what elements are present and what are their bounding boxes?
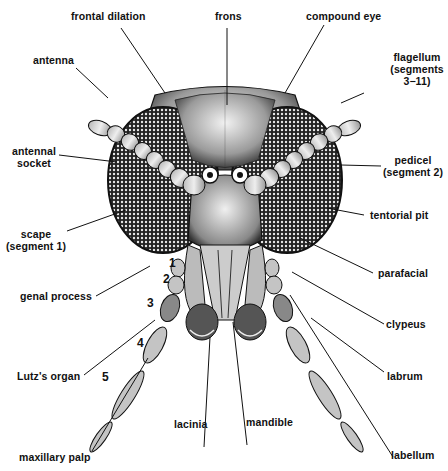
label-flagellum-line1: flagellum [386,51,448,63]
palp-segment-number-2: 2 [163,272,170,286]
palp-segment-number-3: 3 [147,296,154,310]
label-compound-eye: compound eye [306,10,381,22]
label-clypeus: clypeus [386,318,426,330]
label-mandible: mandible [246,416,293,428]
label-antenna: antenna [33,54,74,66]
label-flagellum: flagellum (segments 3−11) [386,51,448,87]
label-antennal-socket-line1: antennal [10,145,58,157]
label-pedicel-line1: pedicel [380,154,446,166]
label-scape-line2: (segment 1) [2,240,70,252]
label-lutzs-organ: Lutz's organ [17,370,80,382]
label-antennal-socket-line2: socket [10,157,58,169]
label-scape-line1: scape [2,228,70,240]
palp-segment-number-4: 4 [137,336,144,350]
label-frontal-dilation: frontal dilation [71,10,146,22]
label-labellum: labellum [391,449,434,461]
label-frons: frons [215,10,242,22]
label-flagellum-line3: 3−11) [386,75,448,87]
label-genal-process: genal process [20,290,92,302]
label-pedicel: pedicel (segment 2) [380,154,446,178]
label-parafacial: parafacial [378,267,428,279]
label-labrum: labrum [387,370,423,382]
label-lacinia: lacinia [174,418,207,430]
insect-head-diagram: frontal dilation frons compound eye ante… [0,0,448,471]
palp-segment-number-5: 5 [102,370,109,384]
label-flagellum-line2: (segments [386,63,448,75]
label-pedicel-line2: (segment 2) [380,166,446,178]
label-maxillary-palp: maxillary palp [19,451,90,463]
palp-segment-number-1: 1 [169,256,176,270]
mouthparts [184,245,266,340]
label-antennal-socket: antennal socket [10,145,58,169]
label-tentorial-pit: tentorial pit [370,209,428,221]
label-scape: scape (segment 1) [2,228,70,252]
